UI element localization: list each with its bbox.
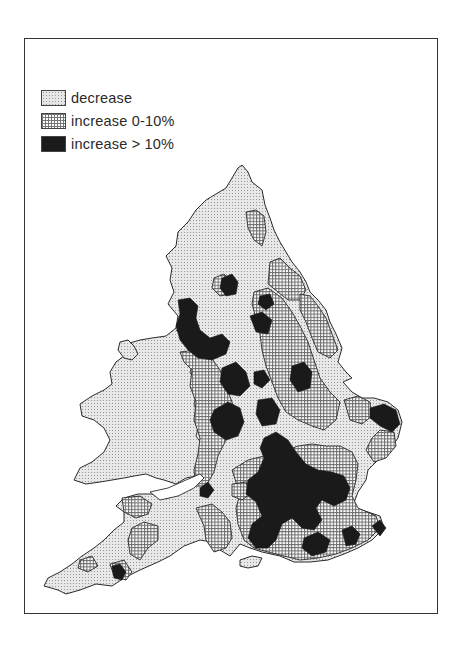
choropleth-map bbox=[0, 0, 462, 652]
island-wight bbox=[240, 556, 262, 568]
